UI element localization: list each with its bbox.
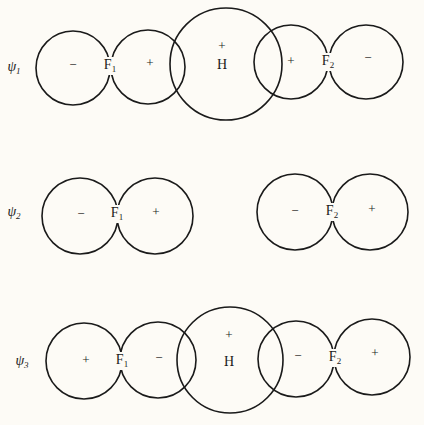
phase-sign: −: [291, 203, 298, 218]
phase-sign: +: [287, 53, 294, 68]
phase-sign: +: [368, 201, 375, 216]
mo-diagram: ψ1−+++−F1HF2ψ2−+−+F1F2ψ3+−+−+F1HF2: [0, 0, 424, 425]
phase-sign: +: [218, 38, 225, 53]
atom-label: H: [217, 57, 227, 72]
phase-sign: −: [155, 350, 162, 365]
orbital-figure: ψ1−+++−F1HF2ψ2−+−+F1F2ψ3+−+−+F1HF2: [0, 0, 424, 425]
phase-sign: +: [82, 352, 89, 367]
wavefunction-label: ψ1: [7, 59, 20, 76]
phase-sign: −: [294, 348, 301, 363]
orbital-row-psi3: ψ3+−+−+F1HF2: [15, 307, 410, 413]
phase-sign: +: [152, 204, 159, 219]
atom-label: H: [224, 354, 234, 369]
phase-sign: −: [69, 57, 76, 72]
orbital-row-psi1: ψ1−+++−F1HF2: [7, 8, 403, 120]
phase-sign: −: [77, 206, 84, 221]
orbital-row-psi2: ψ2−+−+F1F2: [7, 174, 408, 254]
phase-sign: +: [225, 327, 232, 342]
phase-sign: +: [146, 55, 153, 70]
phase-sign: +: [371, 345, 378, 360]
wavefunction-label: ψ2: [7, 204, 21, 221]
wavefunction-label: ψ3: [15, 353, 29, 370]
phase-sign: −: [364, 50, 371, 65]
